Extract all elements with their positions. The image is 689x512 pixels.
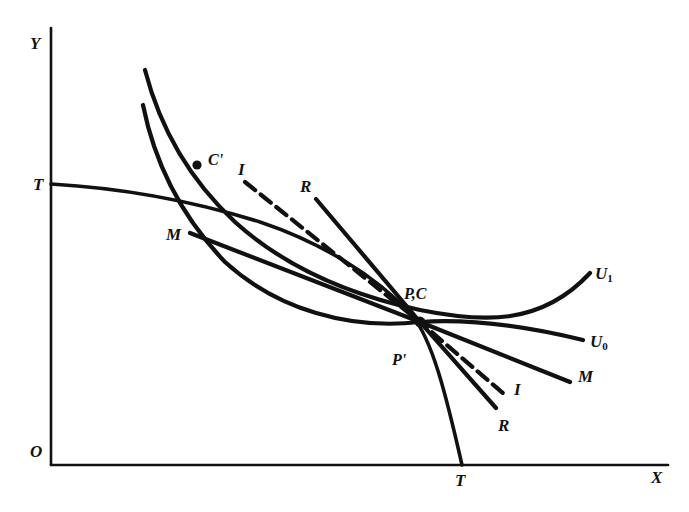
transformation-curve-label-start: T bbox=[33, 176, 43, 193]
point-label-c-prime: C' bbox=[208, 152, 223, 168]
indifference-curve-u0 bbox=[143, 105, 583, 340]
price-line-ii-label-start: I bbox=[238, 161, 245, 178]
price-line-rr-label-end: R bbox=[498, 417, 509, 434]
point-label-pc: P,C bbox=[404, 286, 426, 302]
u1-subscript: 1 bbox=[607, 272, 613, 284]
economic-diagram-figure: Y X O T T U1 U0 M M R R I I C' P,C P' bbox=[0, 0, 689, 512]
point-marker-pc bbox=[415, 317, 426, 328]
price-line-rr bbox=[316, 199, 496, 408]
origin-label: O bbox=[30, 443, 42, 460]
price-line-mm-label-end: M bbox=[578, 368, 593, 385]
y-axis-label: Y bbox=[30, 35, 40, 52]
transformation-curve-label-end: T bbox=[455, 472, 465, 489]
price-line-rr-label-start: R bbox=[300, 178, 311, 195]
x-axis-label: X bbox=[651, 469, 662, 486]
indifference-curve-u1 bbox=[145, 70, 590, 318]
u0-subscript: 0 bbox=[602, 340, 608, 352]
price-line-ii-label-end: I bbox=[514, 381, 521, 398]
indifference-curve-u0-label: U0 bbox=[590, 333, 608, 352]
price-line-ii bbox=[245, 182, 504, 394]
point-label-p-prime: P' bbox=[392, 352, 406, 368]
price-line-mm bbox=[190, 233, 570, 382]
u1-base: U bbox=[595, 264, 607, 283]
point-marker-c-prime bbox=[192, 160, 201, 169]
u0-base: U bbox=[590, 332, 602, 351]
price-line-mm-label-start: M bbox=[166, 226, 181, 243]
indifference-curve-u1-label: U1 bbox=[595, 265, 613, 284]
